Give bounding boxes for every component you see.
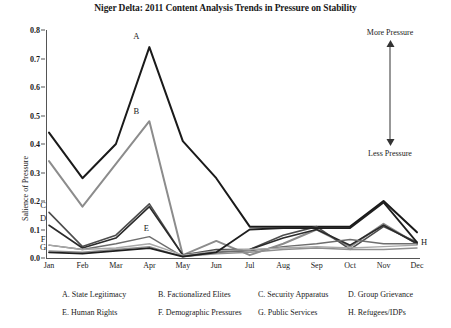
series-label-C: C [40, 200, 46, 210]
y-tick-mark-0.8 [41, 30, 45, 31]
x-tick-aug: Aug [276, 261, 290, 270]
legend-item-c: C. Security Apparatus [258, 290, 328, 299]
x-tick-dec: Dec [411, 261, 424, 270]
legend-item-a: A. State Legitimacy [62, 290, 126, 299]
legend-item-b: B. Factionalized Elites [158, 290, 231, 299]
y-tick-mark-0.1 [41, 229, 45, 230]
x-tick-nov: Nov [377, 261, 391, 270]
series-label-E: E [144, 223, 149, 233]
x-tick-may: May [175, 261, 190, 270]
legend-item-e: E. Human Rights [62, 308, 117, 317]
y-tick-mark-0.3 [41, 172, 45, 173]
y-axis-tick-marks [0, 30, 46, 258]
y-tick-mark-0.6 [41, 87, 45, 88]
chart-root: Niger Delta: 2011 Content Analysis Trend… [0, 0, 451, 328]
legend-row-2: E. Human RightsF. Demographic PressuresG… [0, 308, 451, 324]
legend-item-d: D. Group Grievance [348, 290, 413, 299]
series-label-G: G [40, 242, 46, 252]
less-pressure-label: Less Pressure [334, 149, 446, 158]
more-pressure-label: More Pressure [334, 28, 446, 37]
series-label-D: D [40, 213, 46, 223]
legend-item-g: G. Public Services [258, 308, 317, 317]
pressure-direction-annotation: More Pressure Less Pressure [334, 28, 446, 158]
x-tick-oct: Oct [344, 261, 356, 270]
y-tick-mark-0.7 [41, 58, 45, 59]
x-tick-sep: Sep [311, 261, 323, 270]
x-tick-jan: Jan [44, 261, 55, 270]
legend: A. State LegitimacyB. Factionalized Elit… [0, 290, 451, 328]
y-axis-line [46, 30, 47, 258]
double-headed-vertical-arrow-icon [390, 46, 391, 140]
series-label-B: B [134, 106, 140, 116]
y-tick-mark-0.5 [41, 115, 45, 116]
x-tick-jul: Jul [245, 261, 254, 270]
x-tick-mar: Mar [109, 261, 122, 270]
y-tick-mark-0.0 [41, 258, 45, 259]
x-tick-jun: Jun [211, 261, 222, 270]
y-tick-mark-0.4 [41, 144, 45, 145]
x-tick-feb: Feb [76, 261, 88, 270]
chart-title: Niger Delta: 2011 Content Analysis Trend… [0, 3, 451, 13]
legend-row-1: A. State LegitimacyB. Factionalized Elit… [0, 290, 451, 306]
x-tick-apr: Apr [143, 261, 155, 270]
series-label-A: A [133, 31, 139, 41]
legend-item-h: H. Refugees/IDPs [348, 308, 406, 317]
x-axis-tick-labels: JanFebMarAprMayJunJulAugSepOctNovDec [46, 261, 420, 275]
legend-item-f: F. Demographic Pressures [158, 308, 242, 317]
x-axis-line [46, 258, 420, 259]
series-label-H: H [421, 237, 427, 247]
